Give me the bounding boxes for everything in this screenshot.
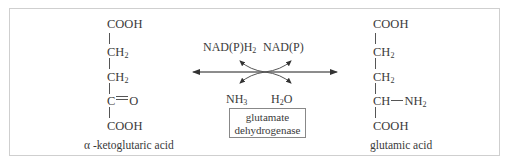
cofactor-h2o: H2O [271, 92, 292, 106]
cofactor-nadph2: NAD(P)H2 [203, 40, 256, 54]
cofactor-nh3: NH3 [226, 92, 247, 106]
enzyme-name-line2: dehydrogenase [230, 124, 305, 137]
enzyme-box: glutamate dehydrogenase [229, 108, 306, 138]
cofactor-nadp: NAD(P) [263, 40, 304, 54]
enzyme-name-line1: glutamate [230, 111, 305, 124]
reaction-arrows [0, 0, 510, 165]
